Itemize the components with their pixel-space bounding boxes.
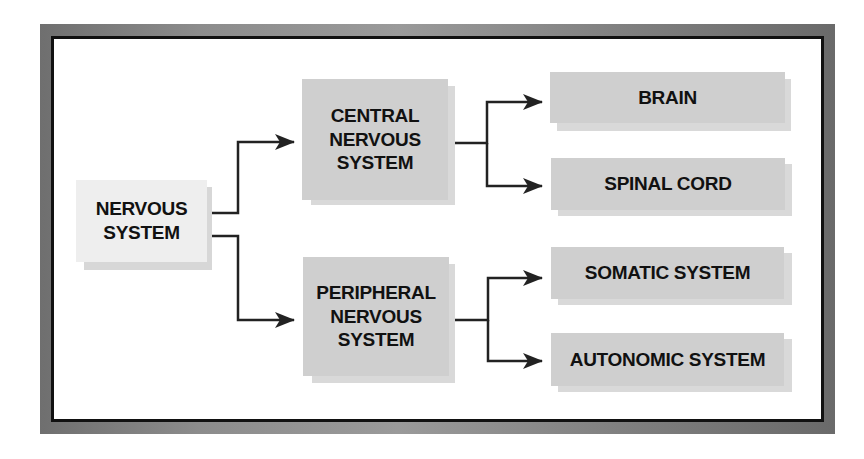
node-box: NERVOUS SYSTEM bbox=[76, 180, 207, 262]
edge-nervous-to-central bbox=[207, 142, 294, 213]
node-label: BRAIN bbox=[638, 86, 697, 110]
edge-peripheral-to-autonomic bbox=[488, 320, 542, 361]
edge-central-to-spinal-cord bbox=[487, 143, 542, 186]
node-label-line: SYSTEM bbox=[316, 328, 435, 352]
node-label-line: NERVOUS bbox=[329, 128, 421, 152]
node-label: SPINAL CORD bbox=[604, 172, 731, 196]
node-label-line: CENTRAL bbox=[329, 104, 421, 128]
node-box: SOMATIC SYSTEM bbox=[551, 247, 784, 299]
edge-peripheral-to-somatic bbox=[449, 278, 542, 320]
edge-nervous-to-peripheral bbox=[207, 236, 294, 320]
node-box: SPINAL CORD bbox=[551, 158, 785, 210]
node-box: CENTRAL NERVOUS SYSTEM bbox=[302, 79, 448, 200]
node-label: AUTONOMIC SYSTEM bbox=[570, 348, 765, 372]
node-label: SOMATIC SYSTEM bbox=[585, 261, 750, 285]
node-label-line: PERIPHERAL bbox=[316, 281, 435, 305]
node-label-line: NERVOUS bbox=[316, 305, 435, 329]
node-label-line: NERVOUS bbox=[96, 197, 188, 221]
node-box: PERIPHERAL NERVOUS SYSTEM bbox=[303, 257, 449, 376]
node-box: BRAIN bbox=[550, 72, 785, 123]
edge-central-to-brain bbox=[443, 102, 542, 143]
node-label-line: SYSTEM bbox=[329, 151, 421, 175]
node-label-line: SYSTEM bbox=[96, 221, 188, 245]
node-box: AUTONOMIC SYSTEM bbox=[551, 333, 784, 386]
